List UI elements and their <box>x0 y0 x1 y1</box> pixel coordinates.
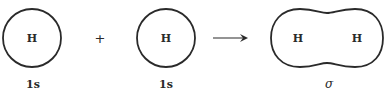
left-atom-orbital: H <box>3 9 61 67</box>
right-orbital-label: 1s <box>159 78 173 91</box>
sigma-right-atom-symbol: H <box>352 32 362 45</box>
sigma-bond-orbital: H H <box>271 9 383 67</box>
right-atom-orbital: H <box>137 9 195 67</box>
sigma-left-atom-symbol: H <box>293 32 303 45</box>
sigma-orbital-outline <box>271 9 383 67</box>
plus-sign: + <box>95 31 106 46</box>
sigma-orbital-label: σ <box>325 77 334 91</box>
right-atom-symbol: H <box>161 32 171 45</box>
left-orbital-label: 1s <box>26 78 40 91</box>
left-atom-symbol: H <box>27 32 37 45</box>
reaction-arrow-icon <box>213 34 248 42</box>
orbital-diagram: H 1s + H 1s H H σ <box>0 0 385 91</box>
